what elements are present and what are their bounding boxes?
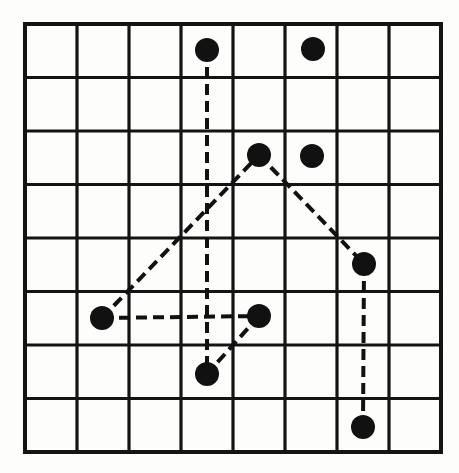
dot-marker-center-dot bbox=[247, 304, 271, 328]
dot-marker-bottom-right-dot bbox=[351, 415, 375, 439]
dot-marker-top-right-dot bbox=[301, 37, 325, 61]
dot-marker-left-dot bbox=[90, 306, 114, 330]
dot-marker-isolated-upper-dot bbox=[300, 144, 324, 168]
dot-marker-right-mid-dot bbox=[352, 252, 376, 276]
lattice-diagram bbox=[0, 0, 459, 473]
figure-container: Dot pattern on 8 by 8 square lattice wit… bbox=[0, 0, 459, 473]
dot-marker-lower-center-dot bbox=[195, 362, 219, 386]
dot-marker-top-left-dot bbox=[195, 38, 219, 62]
dot-marker-peak-dot bbox=[247, 143, 271, 167]
